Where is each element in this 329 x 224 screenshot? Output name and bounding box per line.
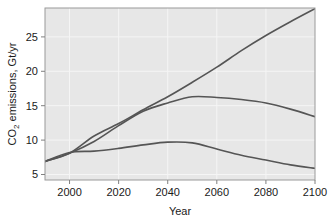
x-tick-label: 2100 xyxy=(303,186,327,198)
y-axis-title-main: CO xyxy=(6,128,18,145)
x-tick-label: 2040 xyxy=(155,186,179,198)
x-tick-label: 2060 xyxy=(205,186,229,198)
x-tick-label: 2020 xyxy=(106,186,130,198)
x-tick-label: 2080 xyxy=(254,186,278,198)
y-tick-label: 20 xyxy=(26,65,38,77)
x-axis-title: Year xyxy=(169,205,192,217)
co2-emissions-line-chart: 200020202040206020802100 510152025 Year … xyxy=(0,0,329,224)
y-tick-label: 5 xyxy=(32,168,38,180)
plot-area-background xyxy=(45,8,315,180)
x-tick-label: 2000 xyxy=(57,186,81,198)
y-tick-label: 10 xyxy=(26,134,38,146)
y-axis-title-rest: emissions, Gt/yr xyxy=(6,42,18,124)
y-tick-label: 15 xyxy=(26,100,38,112)
y-tick-label: 25 xyxy=(26,31,38,43)
chart-figure: 200020202040206020802100 510152025 Year … xyxy=(0,0,329,224)
